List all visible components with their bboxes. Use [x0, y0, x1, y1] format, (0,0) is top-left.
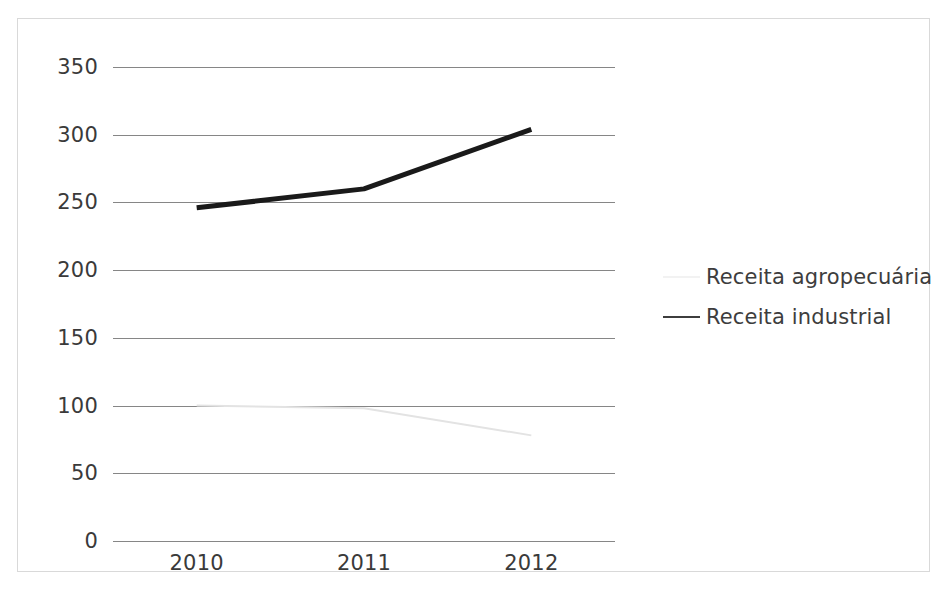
series-line [197, 406, 532, 436]
y-axis-tick-labels: 350300250200150100500 [38, 67, 98, 541]
y-tick-label: 50 [71, 461, 98, 485]
y-tick-label: 200 [57, 258, 98, 282]
chart-frame: 350300250200150100500 201020112012 Recei… [17, 18, 930, 572]
chart-legend: Receita agropecuáriaReceita industrial [663, 257, 928, 337]
legend-item[interactable]: Receita agropecuária [663, 257, 928, 297]
x-tick-label: 2010 [170, 551, 224, 575]
legend-item[interactable]: Receita industrial [663, 297, 928, 337]
legend-line-icon [663, 276, 700, 278]
y-tick-label: 100 [57, 394, 98, 418]
y-tick-label: 250 [57, 190, 98, 214]
legend-line-icon [663, 316, 700, 318]
legend-label: Receita industrial [706, 305, 891, 329]
legend-label: Receita agropecuária [706, 265, 932, 289]
plot-area [113, 67, 615, 541]
x-tick-label: 2012 [504, 551, 558, 575]
series-lines [113, 67, 615, 541]
x-tick-label: 2011 [337, 551, 391, 575]
y-tick-label: 300 [57, 123, 98, 147]
y-tick-label: 350 [57, 55, 98, 79]
series-line [197, 129, 532, 208]
y-tick-label: 0 [84, 529, 98, 553]
y-tick-label: 150 [57, 326, 98, 350]
chart-screenshot: 350300250200150100500 201020112012 Recei… [0, 0, 952, 594]
x-axis-tick-labels: 201020112012 [113, 549, 615, 583]
gridline [113, 541, 615, 542]
